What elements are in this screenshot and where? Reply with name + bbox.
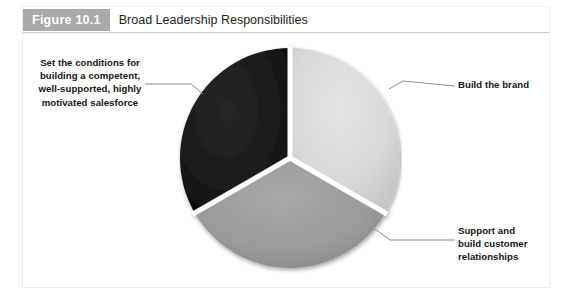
figure-number-badge: Figure 10.1 xyxy=(23,9,110,31)
callout-label-salesforce: Set the conditions for building a compet… xyxy=(20,56,160,109)
figure-container: Figure 10.1 Broad Leadership Responsibil… xyxy=(0,0,572,298)
figure-header: Figure 10.1 Broad Leadership Responsibil… xyxy=(23,9,549,31)
callout-label-build-the-brand: Build the brand xyxy=(458,78,562,91)
header-divider xyxy=(23,32,549,33)
figure-title: Broad Leadership Responsibilities xyxy=(110,9,308,31)
pie-chart xyxy=(178,44,402,274)
callout-label-customer-relationships: Support and build customer relationships xyxy=(458,224,564,264)
